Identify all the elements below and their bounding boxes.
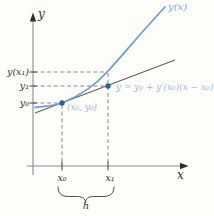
x1-label: x₁ bbox=[101, 173, 119, 183]
curve-label: y(x) bbox=[168, 2, 187, 12]
point0-label: (x₀, y₀) bbox=[67, 103, 97, 112]
point-x0-y0 bbox=[59, 100, 64, 105]
x-axis-label: x bbox=[177, 169, 184, 181]
tangent-equation-label: y = y₀ + y′(x₀)(x − x₀) bbox=[116, 83, 213, 92]
tick-marks bbox=[30, 72, 109, 171]
point-x1-y1 bbox=[105, 83, 110, 88]
y-of-x1-label: y(x₁) bbox=[0, 67, 29, 77]
function-curve bbox=[35, 7, 165, 108]
linear-approximation-figure: y x y(x) y(x₁) y₁ y₀ x₀ x₁ (x₀, y₀) y = … bbox=[0, 0, 214, 216]
y1-label: y₁ bbox=[0, 81, 29, 91]
y-axis-arrow-icon bbox=[30, 13, 36, 22]
y0-label: y₀ bbox=[0, 98, 29, 108]
y-axis-label: y bbox=[38, 8, 45, 20]
dashed-guides bbox=[34, 72, 108, 165]
diagram-canvas bbox=[0, 0, 214, 216]
interval-h-label: h bbox=[80, 201, 92, 211]
axes bbox=[27, 17, 182, 175]
x0-label: x₀ bbox=[53, 173, 71, 183]
